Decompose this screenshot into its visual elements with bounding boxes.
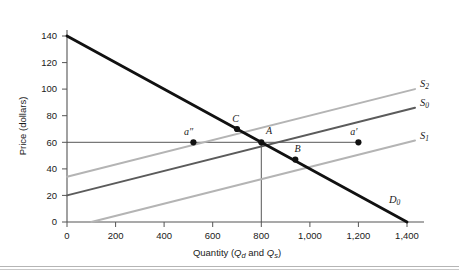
x-tick-label: 200 <box>108 230 124 241</box>
point-label-c: C <box>232 113 239 124</box>
x-axis-title-prefix: Quantity ( <box>193 247 235 258</box>
point-label-b: B <box>294 143 300 154</box>
bottom-divider-rule-lower <box>0 269 459 270</box>
x-axis-title-and: and <box>246 247 267 258</box>
point-label-a-prime: a′ <box>350 126 358 137</box>
curve-label-s2-sub: 2 <box>425 82 429 91</box>
y-tick-label: 0 <box>52 216 57 227</box>
x-tick-label: 800 <box>253 230 269 241</box>
y-tick-label: 120 <box>41 57 57 68</box>
y-tick-label: 80 <box>46 110 57 121</box>
x-tick-label: 1,400 <box>395 230 419 241</box>
data-point-a-double-prime <box>190 139 196 145</box>
x-tick-label: 1,200 <box>347 230 371 241</box>
bottom-divider-rule-upper <box>0 266 459 267</box>
supply-demand-chart: 0 20 40 60 80 100 120 140 0 200 400 600 … <box>0 0 459 276</box>
y-tick-label: 140 <box>41 30 57 41</box>
curve-label-d0-sub: 0 <box>397 198 401 207</box>
data-point-b <box>292 157 298 163</box>
supply-demand-figure: 0 20 40 60 80 100 120 140 0 200 400 600 … <box>0 0 459 276</box>
data-point-a-prime <box>355 139 361 145</box>
y-axis-title: Price (dollars) <box>17 97 28 156</box>
y-tick-label: 100 <box>41 83 57 94</box>
x-tick-label: 1,000 <box>298 230 322 241</box>
y-tick-label: 20 <box>46 190 57 201</box>
data-point-a <box>258 139 264 145</box>
point-label-a-double-prime: a″ <box>184 126 194 137</box>
curve-label-s0-sub: 0 <box>425 101 429 110</box>
point-label-a: A <box>265 125 273 136</box>
x-tick-label: 600 <box>205 230 221 241</box>
y-tick-label: 40 <box>46 163 57 174</box>
y-tick-label: 60 <box>46 137 57 148</box>
x-tick-label: 0 <box>64 230 69 241</box>
x-tick-label: 400 <box>156 230 172 241</box>
data-point-c <box>234 126 240 132</box>
curve-label-s1-sub: 1 <box>425 134 429 143</box>
x-axis-title-suffix: ) <box>278 247 281 258</box>
